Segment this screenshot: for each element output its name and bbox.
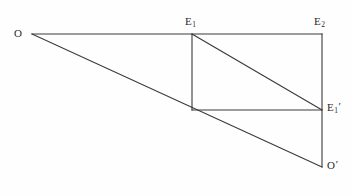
ray-O-to-O-prime (32, 34, 322, 167)
label-subscript: 1 (192, 20, 196, 29)
label-prime-mark: ′ (336, 158, 339, 170)
label-letter: E (185, 15, 192, 27)
segment-E1-to-E1-prime (192, 34, 322, 110)
vertex-label-e1: E1 (185, 16, 196, 27)
label-subscript: 2 (321, 20, 325, 29)
label-letter: O (14, 27, 22, 39)
geometry-diagram: O E1 E2 E1′ O′ (0, 0, 351, 196)
vertex-label-o: O (14, 28, 22, 39)
label-letter: E (327, 101, 334, 113)
segment-layer (32, 34, 322, 167)
diagram-canvas (0, 0, 351, 196)
label-prime-mark: ′ (338, 100, 341, 112)
vertex-label-e2: E2 (314, 16, 325, 27)
vertex-label-o-prime: O′ (327, 160, 338, 171)
label-letter: E (314, 15, 321, 27)
label-letter: O (327, 159, 335, 171)
vertex-label-e1-prime: E1′ (327, 102, 340, 113)
